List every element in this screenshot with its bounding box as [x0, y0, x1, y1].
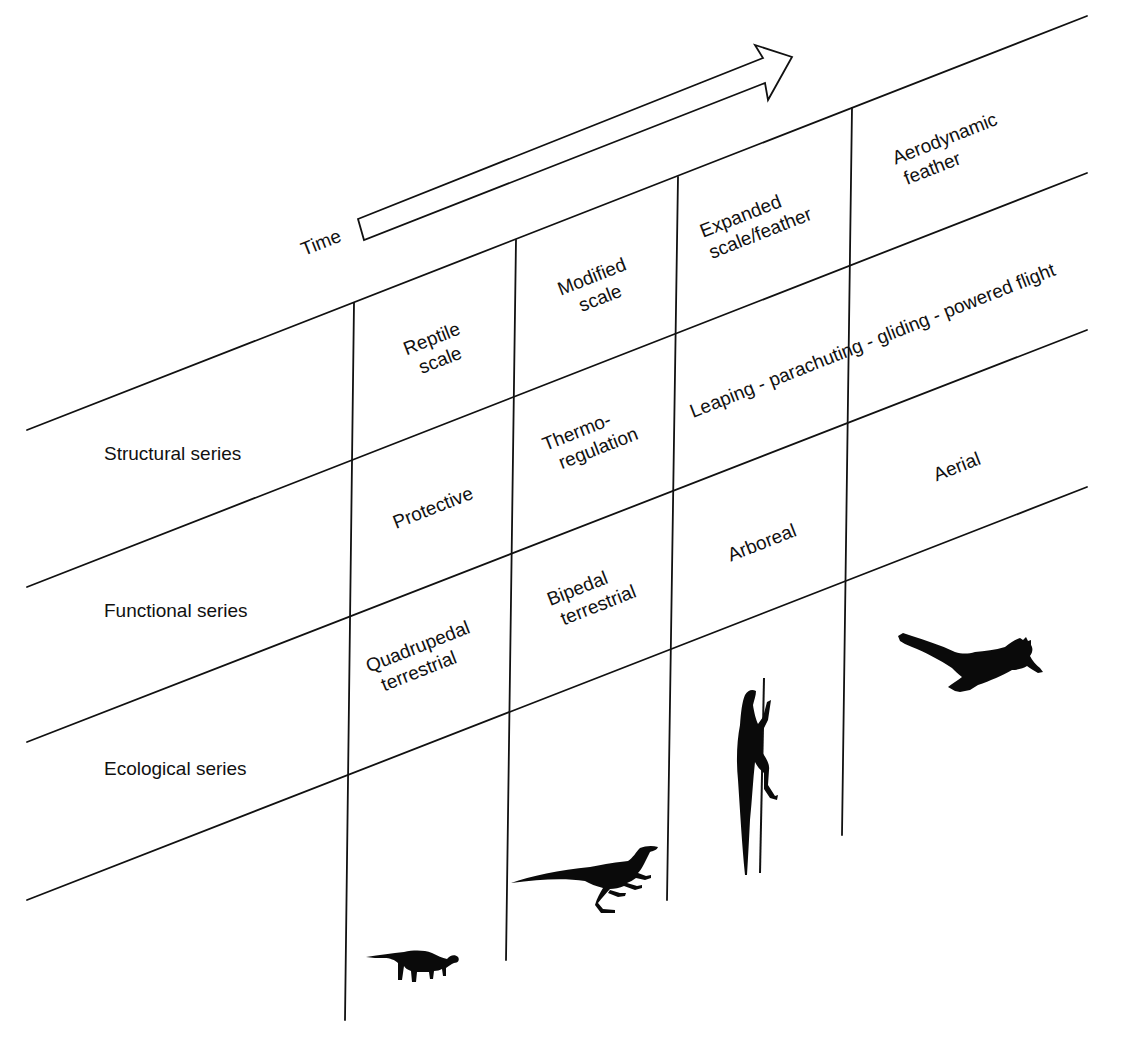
vertical-line-1	[345, 303, 354, 1020]
structural-series-cells: Reptile scale Modified scale Expanded sc…	[400, 108, 1008, 380]
cell-modified-scale: Modified scale	[554, 254, 637, 321]
cell-quadrupedal-terrestrial: Quadrupedal terrestrial	[363, 617, 481, 698]
svg-text:Leaping - parachuting - glidin: Leaping - parachuting - gliding - powere…	[687, 259, 1059, 422]
diagonal-line-3	[27, 330, 1087, 742]
cell-aerial: Aerial	[930, 448, 983, 485]
row-label-ecological: Ecological series	[104, 758, 247, 779]
time-label: Time	[298, 225, 344, 260]
vertical-line-4	[842, 108, 852, 835]
vertical-line-2	[506, 240, 516, 960]
evolution-diagram: Time Structural series Functional series…	[0, 0, 1129, 1045]
bipedal-dinosaur-icon	[511, 846, 658, 913]
svg-text:Aerial: Aerial	[930, 448, 983, 485]
vertical-line-3	[667, 177, 678, 900]
quadrupedal-dinosaur-icon	[366, 951, 459, 982]
row-label-structural: Structural series	[104, 443, 241, 464]
cell-arboreal: Arboreal	[725, 520, 800, 566]
cell-expanded-scale-feather: Expanded scale/feather	[697, 182, 815, 263]
flying-dinosaur-icon	[898, 633, 1043, 692]
cell-aerodynamic-feather: Aerodynamic feather	[889, 108, 1008, 190]
silhouettes	[366, 633, 1043, 982]
cell-protective: Protective	[390, 482, 476, 533]
row-labels: Structural series Functional series Ecol…	[104, 443, 248, 779]
svg-text:Arboreal: Arboreal	[725, 520, 800, 566]
diagonal-line-2	[27, 173, 1087, 587]
climbing-dinosaur-icon	[737, 678, 778, 875]
diagonal-line-1	[27, 16, 1087, 430]
diagonal-line-4	[27, 487, 1087, 900]
cell-flight-progression: Leaping - parachuting - gliding - powere…	[687, 259, 1059, 422]
svg-text:Protective: Protective	[390, 482, 476, 533]
cell-reptile-scale: Reptile scale	[400, 318, 471, 381]
functional-series-cells: Protective Thermo- regulation Leaping - …	[390, 259, 1059, 533]
cell-bipedal-terrestrial: Bipedal terrestrial	[544, 559, 639, 631]
cell-thermoregulation: Thermo- regulation	[539, 401, 640, 476]
row-label-functional: Functional series	[104, 600, 248, 621]
